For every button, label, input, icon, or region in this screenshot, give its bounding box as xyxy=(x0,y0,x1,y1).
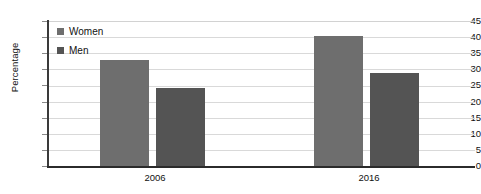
legend-label: Men xyxy=(69,46,88,56)
legend-item-women: Women xyxy=(57,24,103,39)
bar-chart: Percentage 45 40 35 30 25 20 15 10 5 0 2… xyxy=(0,0,481,194)
bar-men-2006 xyxy=(156,88,205,167)
legend-swatch-icon xyxy=(57,28,64,35)
y-axis-line xyxy=(47,20,49,168)
x-axis-category-label: 2016 xyxy=(324,172,414,183)
gridline xyxy=(48,21,475,22)
x-axis-line xyxy=(47,166,475,168)
x-axis-category-label: 2006 xyxy=(110,172,200,183)
legend-swatch-icon xyxy=(57,47,64,54)
bar-women-2006 xyxy=(100,60,149,167)
plot-area xyxy=(48,21,475,167)
y-axis-title: Percentage xyxy=(9,20,20,116)
gridline xyxy=(48,53,475,54)
gridline xyxy=(48,37,475,38)
legend-label: Women xyxy=(69,27,103,37)
bar-women-2016 xyxy=(314,36,363,167)
legend: Women Men xyxy=(57,24,103,62)
legend-item-men: Men xyxy=(57,43,103,58)
bar-men-2016 xyxy=(370,73,419,167)
